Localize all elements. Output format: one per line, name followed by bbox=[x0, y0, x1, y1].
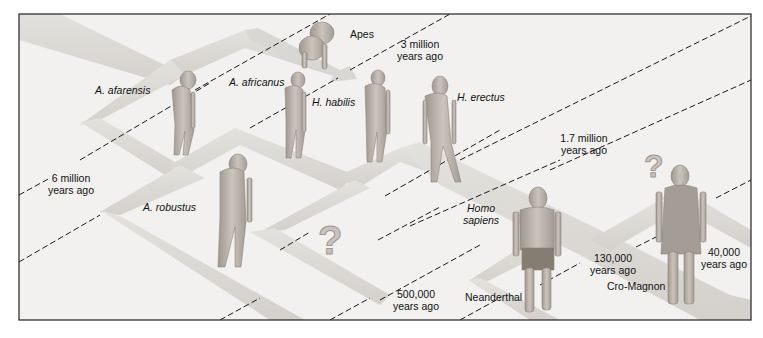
time-label-6-million: 6 million years ago bbox=[46, 172, 96, 196]
label-cro-magnon: Cro-Magnon bbox=[607, 280, 665, 292]
label-neanderthal: Neanderthal bbox=[465, 291, 522, 303]
label-h-habilis: H. habilis bbox=[312, 96, 355, 108]
question-mark-icon: ? bbox=[644, 148, 664, 185]
question-mark-icon: ? bbox=[318, 218, 342, 263]
time-label-500000: 500,000 years ago bbox=[388, 288, 444, 312]
label-a-africanus: A. africanus bbox=[229, 76, 284, 88]
label-a-afarensis: A. afarensis bbox=[95, 84, 150, 96]
label-apes: Apes bbox=[350, 28, 374, 40]
time-label-1-7-million: 1.7 million years ago bbox=[556, 132, 612, 156]
label-h-erectus: H. erectus bbox=[457, 91, 505, 103]
time-label-3-million: 3 million years ago bbox=[395, 38, 445, 62]
label-a-robustus: A. robustus bbox=[143, 201, 196, 213]
time-label-40000: 40,000 years ago bbox=[696, 246, 752, 270]
label-homo-sapiens: Homo sapiens bbox=[461, 202, 501, 226]
evolution-diagram: ? ? Apes A. afarensis A. africanus H. ha… bbox=[0, 0, 763, 338]
time-label-130000: 130,000 years ago bbox=[585, 252, 641, 276]
